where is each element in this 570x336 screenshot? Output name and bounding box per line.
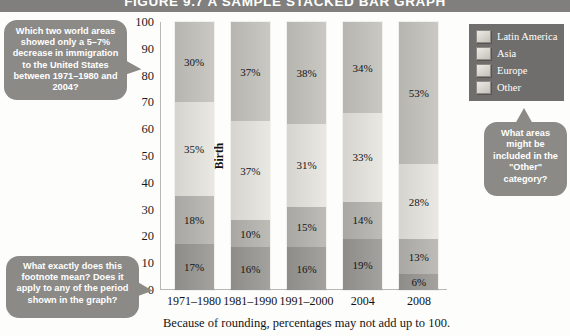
x-tick-2004: 2004 (351, 294, 375, 309)
chart-legend: Latin AmericaAsiaEuropeOther (469, 24, 564, 101)
bar-segment-europe[interactable]: 18% (175, 196, 214, 244)
bar-segment-label: 30% (184, 56, 204, 68)
bar-segment-asia[interactable]: 37% (231, 121, 270, 220)
bar-1981–1990[interactable]: 16%10%37%37% (231, 22, 270, 290)
x-tick-1981–1990: 1981–1990 (223, 294, 277, 309)
bar-segment-label: 14% (353, 214, 373, 226)
bar-segment-latin-america[interactable]: 16% (287, 247, 326, 290)
y-tick-70: 70 (124, 95, 154, 110)
bar-segment-label: 38% (296, 67, 316, 79)
legend-item-label: Asia (497, 48, 516, 59)
legend-item-label: Europe (497, 65, 527, 76)
legend-swatch-latin-america-icon (476, 30, 491, 43)
bar-segment-europe[interactable]: 15% (287, 207, 326, 247)
callout-question-other: What areas might be included in the "Oth… (484, 122, 567, 196)
callout-tail-icon (515, 108, 533, 124)
y-axis-line (160, 22, 161, 290)
bar-segment-label: 37% (240, 66, 260, 78)
figure-title-banner: FIGURE 9.7 A SAMPLE STACKED BAR GRAPH (0, 0, 570, 12)
legend-item-other[interactable]: Other (469, 79, 564, 96)
bar-2004[interactable]: 19%14%33%34% (343, 22, 382, 290)
x-tick-2008: 2008 (407, 294, 431, 309)
bar-segment-label: 33% (353, 151, 373, 163)
bar-segment-label: 6% (412, 276, 427, 288)
bar-segment-other[interactable]: 37% (231, 22, 270, 121)
callout-text: What exactly does this footnote mean? Do… (12, 261, 133, 306)
y-tick-100: 100 (124, 15, 154, 30)
bar-segment-label: 15% (296, 221, 316, 233)
x-tick-1991–2000: 1991–2000 (280, 294, 334, 309)
y-tick-20: 20 (124, 229, 154, 244)
legend-item-label: Other (497, 82, 521, 93)
bar-segment-asia[interactable]: 28% (399, 164, 438, 239)
bar-segment-label: 35% (184, 143, 204, 155)
callout-text: What areas might be included in the "Oth… (489, 128, 562, 185)
y-tick-30: 30 (124, 202, 154, 217)
callout-question-decrease: Which two world areas showed only a 5–7%… (4, 20, 127, 100)
legend-item-europe[interactable]: Europe (469, 62, 564, 79)
y-tick-50: 50 (124, 149, 154, 164)
bar-segment-other[interactable]: 34% (343, 22, 382, 113)
bar-segment-label: 17% (184, 261, 204, 273)
figure-root: FIGURE 9.7 A SAMPLE STACKED BAR GRAPH Pe… (0, 0, 570, 336)
bar-segment-latin-america[interactable]: 19% (343, 239, 382, 290)
legend-item-asia[interactable]: Asia (469, 45, 564, 62)
legend-swatch-europe-icon (476, 64, 491, 77)
legend-item-latin-america[interactable]: Latin America (469, 28, 564, 45)
bar-segment-europe[interactable]: 10% (231, 220, 270, 247)
chart-footnote: Because of rounding, percentages may not… (163, 316, 450, 331)
bar-segment-europe[interactable]: 13% (399, 239, 438, 274)
bar-segment-latin-america[interactable]: 6% (399, 274, 438, 290)
y-tick-40: 40 (124, 175, 154, 190)
chart-plot-area: Percent of U.S. Immigration by Region of… (160, 22, 447, 290)
bar-segment-label: 16% (240, 263, 260, 275)
callout-tail-icon (117, 58, 143, 82)
bar-segment-asia[interactable]: 33% (343, 113, 382, 201)
legend-item-label: Latin America (497, 31, 557, 42)
bar-segment-latin-america[interactable]: 16% (231, 247, 270, 290)
legend-swatch-asia-icon (476, 47, 491, 60)
y-tick-60: 60 (124, 122, 154, 137)
bar-segment-other[interactable]: 30% (175, 22, 214, 102)
stacked-bars: 17%18%35%30%16%10%37%37%16%15%31%38%19%1… (166, 22, 447, 290)
bar-segment-asia[interactable]: 35% (175, 102, 214, 196)
bar-segment-label: 19% (353, 259, 373, 271)
bar-segment-label: 28% (409, 196, 429, 208)
bar-segment-other[interactable]: 38% (287, 22, 326, 124)
bar-segment-label: 53% (409, 87, 429, 99)
y-tick-90: 90 (124, 41, 154, 56)
bar-segment-latin-america[interactable]: 17% (175, 244, 214, 290)
x-tick-1971–1980: 1971–1980 (167, 294, 221, 309)
bar-segment-label: 10% (240, 228, 260, 240)
bar-2008[interactable]: 6%13%28%53% (399, 22, 438, 290)
bar-segment-europe[interactable]: 14% (343, 202, 382, 240)
bar-segment-label: 37% (240, 165, 260, 177)
callout-text: Which two world areas showed only a 5–7%… (10, 26, 121, 93)
legend-swatch-other-icon (476, 81, 491, 94)
bar-segment-asia[interactable]: 31% (287, 124, 326, 207)
bar-segment-label: 34% (353, 62, 373, 74)
bar-1971–1980[interactable]: 17%18%35%30% (175, 22, 214, 290)
bar-1991–2000[interactable]: 16%15%31%38% (287, 22, 326, 290)
bar-segment-other[interactable]: 53% (399, 22, 438, 164)
bar-segment-label: 16% (296, 263, 316, 275)
callout-question-footnote: What exactly does this footnote mean? Do… (6, 256, 139, 318)
bar-segment-label: 18% (184, 214, 204, 226)
bar-segment-label: 31% (296, 159, 316, 171)
bar-segment-label: 13% (409, 251, 429, 263)
